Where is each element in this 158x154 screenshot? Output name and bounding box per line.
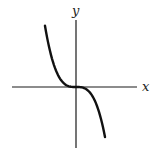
y-axis-label: y bbox=[71, 3, 80, 18]
x-axis-label: x bbox=[142, 79, 150, 94]
cubic-curve bbox=[45, 26, 105, 137]
chart: x y bbox=[0, 0, 158, 154]
